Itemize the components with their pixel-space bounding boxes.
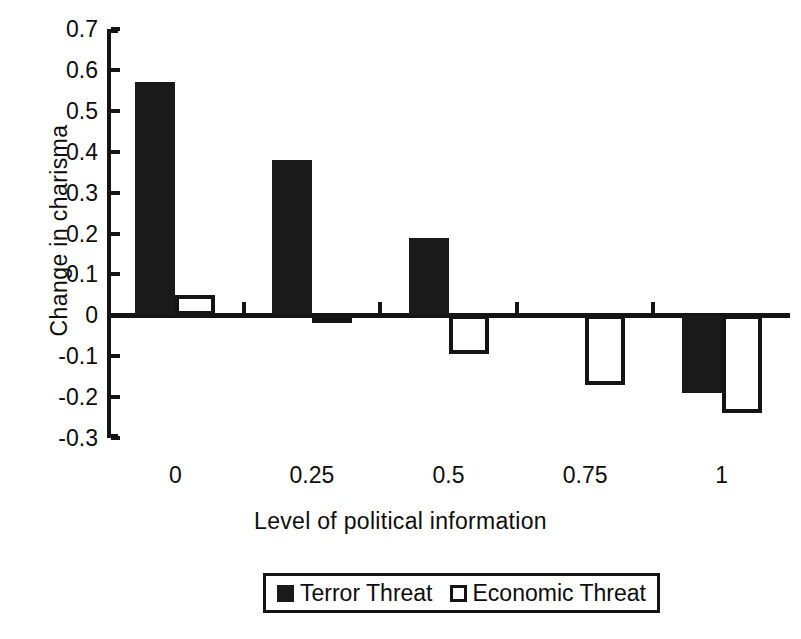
y-axis-tick-label: 0.7 [34,18,98,41]
legend-label: Economic Threat [473,582,646,605]
y-axis-tick-label: 0.1 [34,263,98,286]
x-axis-tick-label: 0.5 [389,462,509,489]
category-tick [242,302,246,313]
y-axis-tick-labels: 0.70.60.50.40.30.20.10-0.1-0.2-0.3 [32,0,98,639]
bar [449,315,489,354]
y-axis-tick [111,191,120,195]
y-axis-tick [111,68,120,72]
legend-swatch-icon [450,585,467,602]
bar [272,160,312,315]
category-tick [651,302,655,313]
y-axis-tick [111,436,120,440]
x-axis-tick-label: 0 [115,462,235,489]
y-axis-tick-label: 0.4 [34,141,98,164]
y-axis-tick-label: -0.3 [34,427,98,450]
y-axis-tick-label: -0.2 [34,386,98,409]
category-tick [515,302,519,313]
y-axis-tick-label: 0.6 [34,59,98,82]
y-axis-tick [111,395,120,399]
plot-area [107,29,790,438]
bar [722,315,762,413]
chart-legend: Terror ThreatEconomic Threat [263,573,660,613]
y-axis-tick-label: -0.1 [34,345,98,368]
bar [175,295,215,315]
y-axis-tick [111,150,120,154]
x-axis-tick-label: 1 [662,462,782,489]
y-axis-tick-label: 0.5 [34,100,98,123]
y-axis-tick-label: 0.3 [34,182,98,205]
bar [682,315,722,393]
bar [135,82,175,315]
y-axis-tick [111,272,120,276]
bar-chart-figure: Change in charisma 0.70.60.50.40.30.20.1… [0,0,801,639]
legend-entry: Economic Threat [450,582,646,605]
y-axis-tick-label: 0 [34,304,98,327]
y-axis-tick [111,232,120,236]
bar [312,315,352,323]
y-axis-tick [111,109,120,113]
y-axis-tick [111,354,120,358]
y-axis-tick-label: 0.2 [34,223,98,246]
x-axis-tick-label: 0.25 [252,462,372,489]
x-axis-title: Level of political information [0,508,801,535]
y-axis-tick [111,27,120,31]
bar [585,315,625,385]
bar [409,238,449,316]
category-tick [378,302,382,313]
x-axis-tick-label: 0.75 [525,462,645,489]
legend-entry: Terror Threat [277,582,433,605]
legend-swatch-icon [277,585,294,602]
legend-label: Terror Threat [300,582,433,605]
